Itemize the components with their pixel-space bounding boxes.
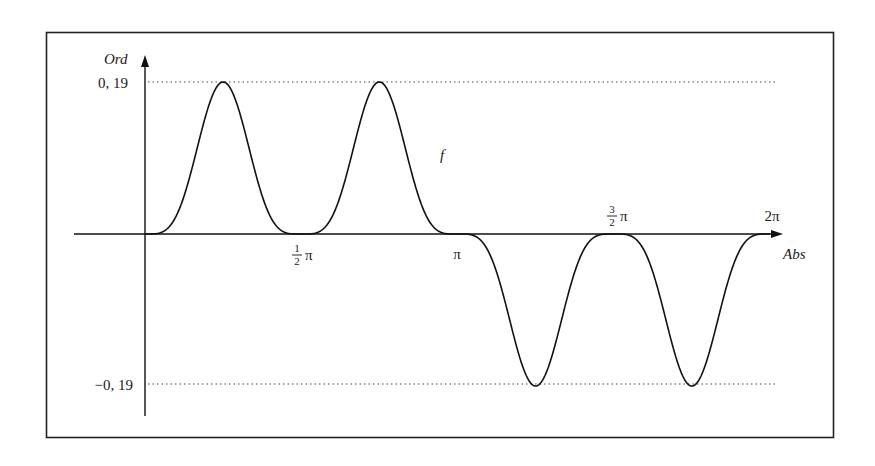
x-axis-arrow-icon (771, 230, 783, 238)
y-tick-label-max: 0, 19 (98, 75, 128, 91)
y-axis-arrow-icon (141, 55, 149, 67)
x-tick-label-two-pi: 2π (764, 208, 780, 224)
svg-text:1: 1 (294, 242, 300, 254)
y-tick-label-min: −0, 19 (95, 377, 133, 393)
svg-text:π: π (620, 208, 628, 224)
curve-label: f (440, 147, 446, 163)
x-tick-label-pi: π (453, 246, 461, 262)
x-tick-label-half-pi: 1 2 π (292, 242, 313, 267)
chart-frame (47, 33, 834, 438)
svg-text:2: 2 (294, 255, 300, 267)
x-tick-label-three-halves-pi: 3 2 π (607, 203, 628, 228)
x-axis-label: Abs (782, 246, 806, 262)
svg-text:3: 3 (609, 203, 615, 215)
y-axis-label: Ord (104, 51, 128, 67)
svg-text:π: π (305, 247, 313, 263)
chart: Ord Abs f 0, 19 −0, 19 1 2 π π 3 2 π 2π (0, 0, 875, 466)
svg-text:2: 2 (609, 216, 615, 228)
